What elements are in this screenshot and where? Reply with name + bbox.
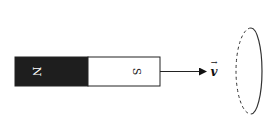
loop-back-half — [236, 28, 251, 114]
bar-magnet: N S — [15, 57, 160, 86]
south-pole — [88, 57, 160, 86]
south-label: S — [130, 68, 143, 76]
velocity-vector: → v — [160, 58, 219, 79]
magnet-loop-diagram: N S → v — [0, 0, 278, 121]
velocity-label: v — [211, 65, 219, 79]
loop-front-half — [251, 28, 262, 114]
conducting-loop — [236, 28, 262, 114]
north-label: N — [30, 67, 43, 77]
north-pole — [15, 57, 88, 86]
